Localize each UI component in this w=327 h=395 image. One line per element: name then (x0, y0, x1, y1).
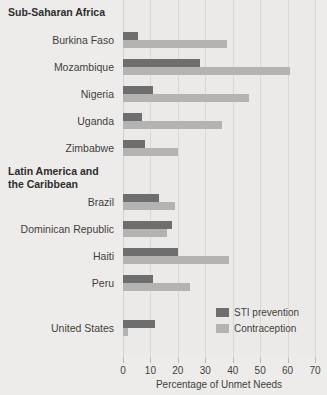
x-axis-tick-40 (233, 358, 234, 363)
x-axis-tick-label-60: 60 (273, 365, 303, 376)
x-axis-tick-label-0: 0 (108, 365, 138, 376)
x-axis-tick-label-30: 30 (190, 365, 220, 376)
x-axis-tick-30 (205, 358, 206, 363)
x-axis-tick-50 (260, 358, 261, 363)
legend-label-contraception: Contraception (234, 323, 296, 334)
x-axis-tick-label-20: 20 (163, 365, 193, 376)
bar-contraception (123, 229, 167, 237)
chart-legend: STI prevention Contraception (216, 305, 299, 337)
group-header-line: the Caribbean (8, 178, 128, 191)
row-label-united-states: United States (0, 322, 114, 334)
row-label-uganda: Uganda (0, 115, 114, 127)
bar-contraception (123, 67, 290, 75)
bar-sti-prevention (123, 32, 138, 40)
row-label-haiti: Haiti (0, 250, 114, 262)
gridline-70 (315, 0, 316, 358)
legend-swatch-sti-prevention (216, 308, 229, 317)
row-label-peru: Peru (0, 277, 114, 289)
legend-item-sti-prevention: STI prevention (216, 305, 299, 319)
bar-sti-prevention (123, 113, 142, 121)
bar-contraception (123, 40, 227, 48)
group-header-line: Sub-Saharan Africa (8, 6, 128, 19)
bar-contraception (123, 283, 190, 291)
row-label-brazil: Brazil (0, 196, 114, 208)
x-axis-tick-70 (315, 358, 316, 363)
gridline-30 (205, 0, 206, 358)
row-label-dominican-republic: Dominican Republic (0, 223, 114, 235)
bar-sti-prevention (123, 248, 178, 256)
bar-sti-prevention (123, 275, 153, 283)
bar-contraception (123, 328, 128, 336)
x-axis-tick-label-10: 10 (135, 365, 165, 376)
x-axis-tick-0 (123, 358, 124, 363)
legend-label-sti-prevention: STI prevention (234, 307, 299, 318)
x-axis-title: Percentage of Unmet Needs (123, 379, 315, 390)
bar-sti-prevention (123, 320, 155, 328)
bar-sti-prevention (123, 194, 159, 202)
x-axis-tick-label-70: 70 (300, 365, 327, 376)
x-axis-tick-60 (288, 358, 289, 363)
x-axis-tick-10 (150, 358, 151, 363)
bar-sti-prevention (123, 59, 200, 67)
x-axis-tick-label-50: 50 (245, 365, 275, 376)
row-label-zimbabwe: Zimbabwe (0, 142, 114, 154)
x-axis-tick-label-40: 40 (218, 365, 248, 376)
group-header-line: Latin America and (8, 165, 128, 178)
category-labels-column: Sub-Saharan AfricaLatin America andthe C… (0, 0, 114, 358)
row-label-nigeria: Nigeria (0, 88, 114, 100)
group-header-latin-america-caribbean: Latin America andthe Caribbean (8, 165, 128, 191)
bar-sti-prevention (123, 221, 172, 229)
legend-item-contraception: Contraception (216, 321, 299, 335)
bar-contraception (123, 256, 229, 264)
x-axis-tick-20 (178, 358, 179, 363)
gridline-20 (178, 0, 179, 358)
bar-contraception (123, 202, 175, 210)
gridline-10 (150, 0, 151, 358)
bar-contraception (123, 94, 249, 102)
row-label-burkina-faso: Burkina Faso (0, 34, 114, 46)
bar-sti-prevention (123, 86, 153, 94)
legend-swatch-contraception (216, 324, 229, 333)
chart-container: Sub-Saharan AfricaLatin America andthe C… (0, 0, 327, 395)
bar-contraception (123, 148, 178, 156)
bar-contraception (123, 121, 222, 129)
row-label-mozambique: Mozambique (0, 61, 114, 73)
group-header-sub-saharan-africa: Sub-Saharan Africa (8, 6, 128, 19)
bar-sti-prevention (123, 140, 145, 148)
